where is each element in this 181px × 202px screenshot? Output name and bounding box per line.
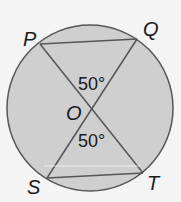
angle-sot-label: 50° <box>78 131 105 151</box>
label-q: Q <box>143 18 159 40</box>
label-o: O <box>66 102 82 124</box>
label-p: P <box>23 28 37 50</box>
angle-poq-label: 50° <box>78 74 105 94</box>
label-t: T <box>147 172 161 194</box>
label-s: S <box>27 176 41 198</box>
circle-diagram: P Q S T O 50° 50° <box>0 0 181 202</box>
